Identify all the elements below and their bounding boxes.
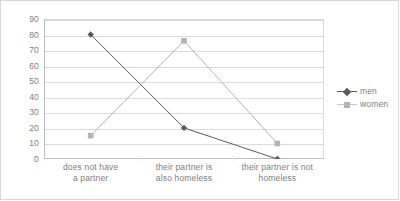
- y-axis-tick-label: 60: [5, 62, 39, 71]
- y-axis-tick-label: 90: [5, 15, 39, 24]
- x-axis-labels: does not havea partnertheir partner isal…: [44, 162, 324, 194]
- x-axis-category-label-0: does not havea partner: [44, 162, 137, 194]
- data-point-women-2[interactable]: [275, 141, 281, 147]
- y-axis-tick-label: 20: [5, 124, 39, 133]
- x-axis-category-label-1: their partner isalso homeless: [137, 162, 230, 194]
- y-axis-tick-label: 50: [5, 77, 39, 86]
- data-point-women-1[interactable]: [181, 38, 187, 44]
- y-axis-tick-label: 0: [5, 155, 39, 164]
- legend-item-men[interactable]: men: [337, 85, 397, 98]
- legend-label-women: women: [357, 99, 388, 110]
- legend-label-men: men: [357, 86, 377, 97]
- data-point-men-2[interactable]: [274, 156, 280, 159]
- legend-item-women[interactable]: women: [337, 98, 397, 111]
- square-marker-icon: [337, 99, 357, 111]
- chart-container: 0102030405060708090 does not havea partn…: [0, 0, 399, 200]
- y-axis-tick-label: 70: [5, 46, 39, 55]
- x-axis-category-label-2: their partner is nothomeless: [231, 162, 324, 194]
- data-point-women-0[interactable]: [88, 133, 94, 139]
- y-axis-tick-label: 80: [5, 31, 39, 40]
- y-axis: 0102030405060708090: [1, 19, 39, 161]
- diamond-marker-icon: [337, 86, 357, 98]
- y-axis-tick-label: 10: [5, 139, 39, 148]
- chart-legend: men women: [337, 85, 397, 111]
- series-layer: [44, 19, 324, 159]
- y-axis-tick-label: 40: [5, 93, 39, 102]
- y-axis-tick-label: 30: [5, 108, 39, 117]
- series-line-men: [91, 35, 278, 159]
